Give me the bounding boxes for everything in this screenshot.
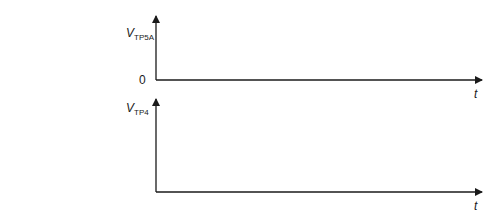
zero-label: 0 <box>139 74 146 86</box>
top-y-axis-label: VTP5A <box>126 27 154 39</box>
top-x-axis-label: t <box>474 88 477 100</box>
bottom-y-axis-label: VTP4 <box>126 102 149 114</box>
waveform-axes <box>0 0 503 223</box>
bottom-x-axis-label: t <box>474 200 477 212</box>
